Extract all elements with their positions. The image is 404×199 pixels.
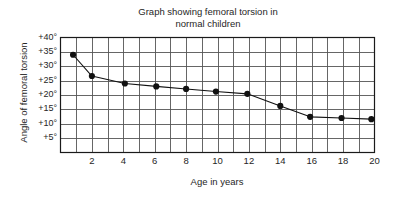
data-point: [122, 80, 128, 86]
grid-minor-vertical: [77, 38, 360, 153]
data-point: [307, 114, 313, 120]
series-markers: [70, 52, 375, 123]
data-point: [213, 88, 219, 94]
chart-figure: Graph showing femoral torsion in normal …: [0, 0, 404, 199]
data-point: [153, 83, 159, 89]
data-point: [244, 91, 250, 97]
plot-area: [0, 0, 404, 199]
data-point: [70, 52, 76, 58]
data-point: [89, 73, 95, 79]
data-point: [277, 103, 283, 109]
data-point: [338, 115, 344, 121]
data-point: [183, 86, 189, 92]
data-point: [368, 116, 374, 122]
